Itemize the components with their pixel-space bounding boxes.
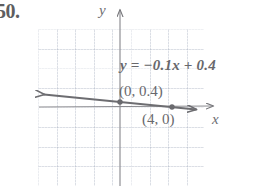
point-y-intercept — [117, 99, 122, 104]
axis-label-y: y — [99, 3, 106, 18]
point-label-y-intercept: (0, 0.4) — [119, 84, 163, 99]
graph-figure: 50. y x y = −0.1x + 0.4 (0, 0.4) (4, 0) — [0, 0, 256, 195]
axis-label-x: x — [212, 112, 219, 127]
x-axis — [39, 106, 213, 107]
point-x-intercept — [169, 104, 174, 109]
equation-label: y = −0.1x + 0.4 — [120, 58, 216, 73]
point-label-x-intercept: (4, 0) — [142, 112, 175, 127]
